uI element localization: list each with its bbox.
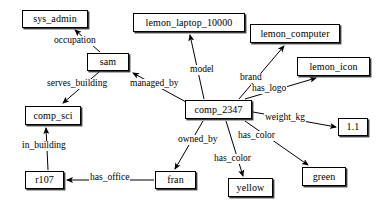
node-weight_value[interactable]: 1.1 <box>338 118 368 136</box>
node-label: yellow <box>237 183 265 193</box>
edge-label-e_serves_building: serves_building <box>46 79 108 89</box>
diagram-canvas: sys_adminlemon_laptop_10000lemon_compute… <box>0 0 377 209</box>
node-lemon_computer[interactable]: lemon_computer <box>250 24 340 43</box>
node-fran[interactable]: fran <box>155 171 196 189</box>
node-label: fran <box>167 175 184 185</box>
node-label: lemon_icon <box>309 62 357 72</box>
node-yellow[interactable]: yellow <box>228 178 273 197</box>
edge-label-e_occupation: occupation <box>53 36 97 46</box>
node-lemon_laptop_10000[interactable]: lemon_laptop_10000 <box>133 13 245 32</box>
node-label: green <box>313 172 336 182</box>
node-sys_admin[interactable]: sys_admin <box>22 10 88 28</box>
edge-e_has_color_g <box>245 121 308 165</box>
node-comp_sci[interactable]: comp_sci <box>25 106 81 125</box>
edge-label-e_managed_by: managed_by <box>129 79 180 89</box>
edge-label-e_has_office: has_office <box>89 173 130 183</box>
node-label: comp_2347 <box>194 105 242 115</box>
node-green[interactable]: green <box>302 167 346 186</box>
node-label: 1.1 <box>347 122 360 132</box>
node-r107[interactable]: r107 <box>25 171 64 189</box>
edge-label-e_in_building: in_building <box>21 141 67 151</box>
edge-label-e_model: model <box>189 65 215 75</box>
edge-label-e_has_color_y: has_color <box>213 154 252 164</box>
edge-e_owned_by <box>175 121 203 169</box>
edge-label-e_owned_by: owned_by <box>177 135 219 145</box>
node-label: comp_sci <box>33 111 72 121</box>
node-label: sam <box>100 57 116 67</box>
node-sam[interactable]: sam <box>87 53 129 71</box>
node-label: sys_admin <box>33 14 77 24</box>
node-lemon_icon[interactable]: lemon_icon <box>297 57 370 76</box>
edge-label-e_has_color_g: has_color <box>237 131 276 141</box>
node-comp_2347[interactable]: comp_2347 <box>185 100 252 119</box>
edge-label-e_weight_kg: weight_kg <box>264 113 306 123</box>
node-label: lemon_laptop_10000 <box>146 18 233 28</box>
edge-label-e_has_logo: has_logo <box>251 84 287 94</box>
node-label: lemon_computer <box>260 29 329 39</box>
edge-label-e_brand: brand <box>239 73 263 83</box>
node-label: r107 <box>35 175 54 185</box>
